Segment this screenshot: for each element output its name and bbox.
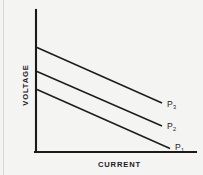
series-label-p3-base: P bbox=[167, 99, 173, 109]
series-label-p3-subscript: 3 bbox=[173, 104, 176, 110]
series-label-p2: P2 bbox=[167, 122, 176, 131]
x-axis-title: CURRENT bbox=[0, 161, 203, 169]
chart-background bbox=[0, 0, 203, 175]
voltage-current-chart-figure: VOLTAGE CURRENT P3 P2 P1 bbox=[0, 0, 203, 175]
series-label-p1-base: P bbox=[175, 142, 181, 152]
series-label-p2-base: P bbox=[167, 121, 173, 131]
series-label-p3: P3 bbox=[167, 100, 176, 109]
y-axis-title: VOLTAGE bbox=[22, 45, 30, 125]
series-label-p1-subscript: 1 bbox=[181, 147, 184, 153]
chart-plot-area bbox=[0, 0, 203, 175]
series-label-p1: P1 bbox=[175, 143, 184, 152]
series-label-p2-subscript: 2 bbox=[173, 126, 176, 132]
